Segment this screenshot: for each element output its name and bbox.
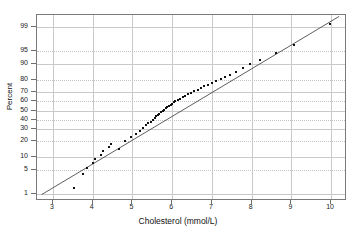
probability-plot: 151020304050607080909599 345678910 Perce… [0,0,356,234]
data-point [82,173,84,175]
data-point [259,59,261,61]
y-axis-tick [31,128,36,129]
data-point [242,67,244,69]
data-point [200,87,202,89]
data-point [147,122,149,124]
data-point [73,187,75,189]
data-point [203,85,205,87]
x-axis-tick-label: 3 [42,203,62,211]
data-point [190,92,192,94]
data-point [118,148,120,150]
y-axis-tick [31,79,36,80]
y-axis-tick-label: 99 [2,22,28,29]
data-point [152,119,154,121]
data-point [275,52,277,54]
y-axis-tick [31,119,36,120]
x-axis-tick-label: 4 [82,203,102,211]
y-axis-tick-label: 20 [2,136,28,143]
x-axis-tick-label: 7 [201,203,221,211]
data-point [329,23,331,25]
x-axis-tick-label: 6 [161,203,181,211]
data-point [293,44,295,46]
y-axis-tick [31,100,36,101]
plot-area [36,14,346,200]
x-axis-tick-label: 5 [121,203,141,211]
y-axis-tick [31,110,36,111]
reference-line [37,15,345,199]
data-point [224,76,226,78]
y-axis-title: Percent [5,62,14,132]
data-point [139,130,141,132]
x-axis-tick-label: 8 [241,203,261,211]
y-axis-tick-label: 1 [2,189,28,196]
data-point [235,71,237,73]
y-axis-tick-label: 10 [2,152,28,159]
data-point [229,74,231,76]
data-point [207,84,209,86]
x-axis-tick-label: 10 [320,203,340,211]
y-axis-tick [31,156,36,157]
y-axis-tick-label: 95 [2,46,28,53]
data-point [94,158,96,160]
data-point [211,82,213,84]
data-point [145,124,147,126]
data-point [193,90,195,92]
y-axis-tick [31,26,36,27]
data-point [124,140,126,142]
y-axis-tick [31,193,36,194]
data-point [100,154,102,156]
y-axis-tick-label: 5 [2,165,28,172]
y-axis-tick [31,91,36,92]
data-point [86,167,88,169]
data-point [184,95,186,97]
x-axis-tick-label: 9 [280,203,300,211]
data-point [187,93,189,95]
data-point [110,143,112,145]
data-point [249,63,251,65]
y-axis-tick [31,63,36,64]
data-point [130,136,132,138]
y-axis-tick [31,140,36,141]
data-point [215,80,217,82]
data-point [142,127,144,129]
data-point [135,133,137,135]
data-point [220,78,222,80]
y-axis-tick [31,50,36,51]
y-axis-tick [31,169,36,170]
data-point [102,150,104,152]
data-point [92,162,94,164]
x-axis-title: Cholesterol (mmol/L) [78,216,278,226]
data-point [197,89,199,91]
data-point [150,121,152,123]
data-point [108,146,110,148]
